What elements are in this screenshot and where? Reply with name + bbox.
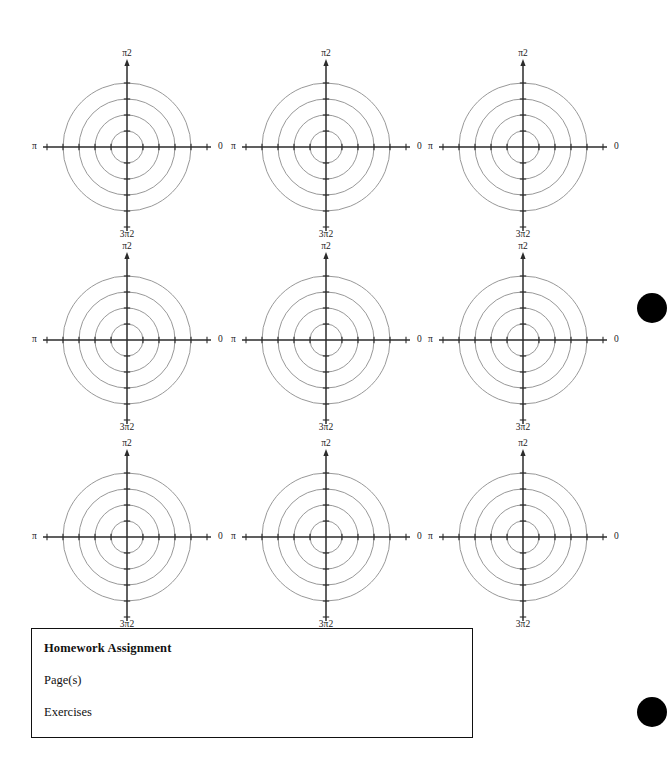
polar-label-three-pi-over-2: 3π2	[319, 423, 333, 433]
polar-plot-7: π23π2π0	[32, 437, 222, 637]
polar-axis-arrow-up	[323, 449, 328, 456]
polar-label-pi: π	[428, 532, 433, 542]
polar-plot-1: π23π2π0	[32, 47, 222, 247]
polar-label-three-pi-over-2: 3π2	[516, 230, 530, 240]
polar-label-pi: π	[231, 335, 236, 345]
polar-label-pi-over-2: π2	[321, 439, 331, 449]
polar-label-zero: 0	[614, 532, 619, 542]
polar-plot-9: π23π2π0	[428, 437, 618, 637]
polar-axis-arrow-up	[124, 59, 129, 66]
polar-label-zero: 0	[417, 532, 422, 542]
polar-axis-arrow-up	[124, 449, 129, 456]
polar-label-pi: π	[32, 335, 37, 345]
polar-label-pi-over-2: π2	[518, 439, 528, 449]
polar-label-pi-over-2: π2	[122, 439, 132, 449]
polar-label-pi: π	[231, 142, 236, 152]
polar-label-three-pi-over-2: 3π2	[120, 230, 134, 240]
polar-label-zero: 0	[218, 335, 223, 345]
polar-plot-4: π23π2π0	[32, 240, 222, 440]
polar-label-pi-over-2: π2	[321, 49, 331, 59]
polar-axis-arrow-up	[323, 252, 328, 259]
polar-label-pi: π	[32, 142, 37, 152]
polar-label-pi: π	[231, 532, 236, 542]
polar-label-zero: 0	[417, 142, 422, 152]
polar-label-pi: π	[428, 335, 433, 345]
polar-label-zero: 0	[614, 142, 619, 152]
polar-label-pi: π	[32, 532, 37, 542]
polar-plot-2: π23π2π0	[231, 47, 421, 247]
homework-exercises-label: Exercises	[44, 705, 92, 720]
homework-title: Homework Assignment	[44, 641, 172, 656]
polar-label-pi: π	[428, 142, 433, 152]
polar-label-zero: 0	[218, 142, 223, 152]
polar-label-pi-over-2: π2	[321, 242, 331, 252]
homework-pages-label: Page(s)	[44, 673, 82, 688]
polar-label-zero: 0	[614, 335, 619, 345]
edge-dot-upper	[637, 293, 667, 323]
polar-label-zero: 0	[417, 335, 422, 345]
homework-assignment-box: Homework Assignment Page(s) Exercises	[31, 628, 473, 738]
polar-plot-5: π23π2π0	[231, 240, 421, 440]
polar-label-three-pi-over-2: 3π2	[319, 230, 333, 240]
polar-label-zero: 0	[218, 532, 223, 542]
polar-label-pi-over-2: π2	[122, 49, 132, 59]
polar-axis-arrow-up	[520, 449, 525, 456]
edge-dot-lower	[637, 697, 667, 727]
polar-plot-3: π23π2π0	[428, 47, 618, 247]
polar-label-three-pi-over-2: 3π2	[516, 423, 530, 433]
polar-label-three-pi-over-2: 3π2	[120, 423, 134, 433]
polar-axis-arrow-up	[323, 59, 328, 66]
polar-axis-arrow-up	[124, 252, 129, 259]
polar-label-pi-over-2: π2	[518, 242, 528, 252]
polar-plot-6: π23π2π0	[428, 240, 618, 440]
polar-plot-8: π23π2π0	[231, 437, 421, 637]
polar-axis-arrow-up	[520, 59, 525, 66]
polar-label-pi-over-2: π2	[122, 242, 132, 252]
polar-axis-arrow-up	[520, 252, 525, 259]
polar-label-pi-over-2: π2	[518, 49, 528, 59]
polar-label-three-pi-over-2: 3π2	[516, 620, 530, 630]
